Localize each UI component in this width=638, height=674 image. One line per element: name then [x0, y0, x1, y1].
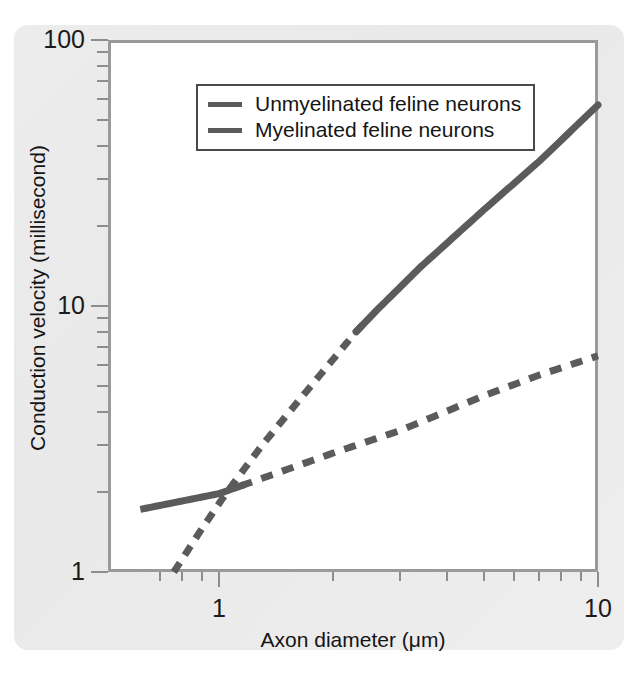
y-minor-tick — [97, 178, 108, 180]
x-tick-label: 10 — [558, 596, 638, 621]
x-minor-tick — [181, 572, 183, 581]
legend-swatch-icon — [208, 102, 242, 107]
y-minor-tick — [97, 317, 108, 319]
y-minor-tick — [97, 346, 108, 348]
y-minor-tick — [97, 225, 108, 227]
legend-box: Unmyelinated feline neurons Myelinated f… — [196, 84, 535, 151]
x-minor-tick — [513, 572, 515, 581]
x-minor-tick — [538, 572, 540, 581]
curve-myelinated-dashed — [174, 324, 363, 572]
curve-unmyelinated-dashed — [241, 356, 598, 486]
y-major-tick — [91, 39, 108, 41]
y-minor-tick — [97, 411, 108, 413]
x-minor-tick — [560, 572, 562, 581]
y-minor-tick — [97, 364, 108, 366]
y-major-tick — [91, 305, 108, 307]
legend-item-myelinated: Myelinated feline neurons — [208, 117, 521, 143]
y-axis-title: Conduction velocity (millisecond) — [26, 88, 50, 508]
x-major-tick — [218, 572, 220, 587]
x-minor-tick — [159, 572, 161, 581]
x-minor-tick — [446, 572, 448, 581]
figure-page: 110100110 Conduction velocity (milliseco… — [0, 0, 638, 674]
y-minor-tick — [97, 491, 108, 493]
legend-item-unmyelinated: Unmyelinated feline neurons — [208, 91, 521, 117]
x-major-tick — [597, 572, 599, 587]
x-axis-title: Axon diameter (μm) — [108, 628, 598, 652]
y-minor-tick — [97, 80, 108, 82]
y-minor-tick — [97, 119, 108, 121]
y-major-tick — [91, 571, 108, 573]
y-tick-label: 100 — [0, 27, 85, 52]
y-minor-tick — [97, 51, 108, 53]
x-minor-tick — [332, 572, 334, 581]
x-minor-tick — [483, 572, 485, 581]
x-minor-tick — [201, 572, 203, 581]
legend-label-myelinated: Myelinated feline neurons — [255, 118, 494, 142]
y-minor-tick — [97, 331, 108, 333]
y-minor-tick — [97, 385, 108, 387]
y-minor-tick — [97, 145, 108, 147]
y-minor-tick — [97, 98, 108, 100]
legend-label-unmyelinated: Unmyelinated feline neurons — [255, 92, 521, 116]
legend-swatch-icon — [208, 128, 242, 133]
y-tick-label: 1 — [0, 559, 85, 584]
y-minor-tick — [97, 65, 108, 67]
x-tick-label: 1 — [179, 596, 259, 621]
x-minor-tick — [399, 572, 401, 581]
curve-unmyelinated-solid — [140, 485, 243, 509]
y-minor-tick — [97, 444, 108, 446]
x-minor-tick — [580, 572, 582, 581]
